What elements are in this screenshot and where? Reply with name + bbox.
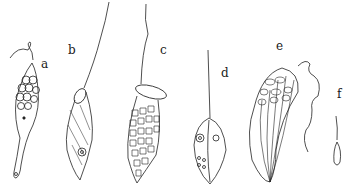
organism-a-granules xyxy=(16,76,40,110)
organism-a xyxy=(10,42,40,178)
organism-c-lorica-pattern xyxy=(130,106,159,176)
label-d: d xyxy=(221,67,229,79)
organism-e xyxy=(249,61,319,182)
label-f: f xyxy=(337,88,341,100)
label-a: a xyxy=(41,58,48,70)
organism-e-granules xyxy=(258,77,292,105)
organism-f xyxy=(334,116,341,165)
label-b: b xyxy=(68,44,76,56)
flagellate-illustration xyxy=(0,0,351,188)
label-e: e xyxy=(276,40,283,52)
organism-b xyxy=(66,2,109,180)
label-c: c xyxy=(160,44,167,56)
organism-c xyxy=(128,4,168,183)
